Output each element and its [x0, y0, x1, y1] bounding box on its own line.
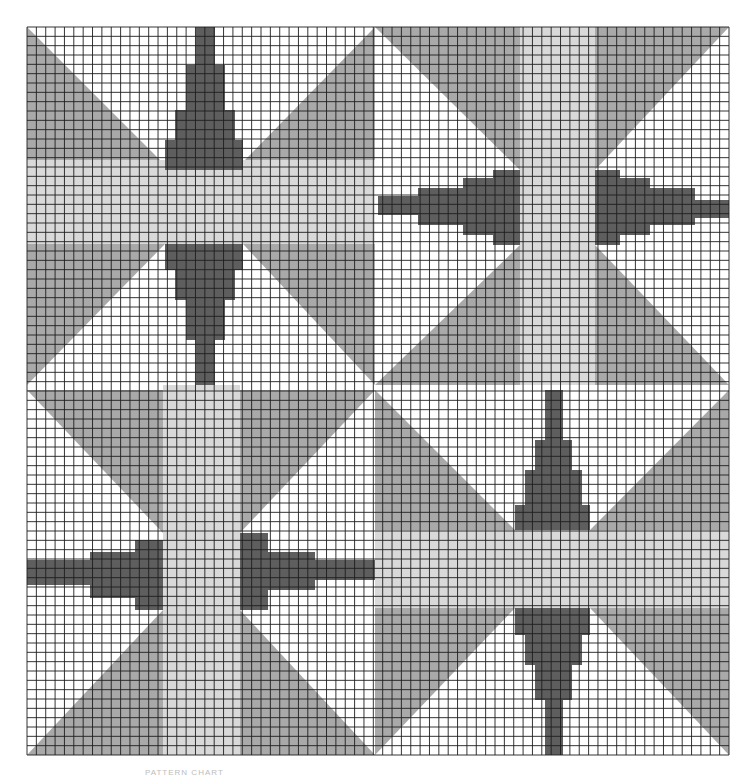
- light-region: [27, 160, 375, 244]
- light-region: [520, 27, 595, 385]
- light-region: [163, 385, 240, 755]
- bottom-left-star: [27, 385, 375, 755]
- pattern-chart: [0, 0, 737, 779]
- chart-caption: PATTERN CHART: [145, 768, 224, 777]
